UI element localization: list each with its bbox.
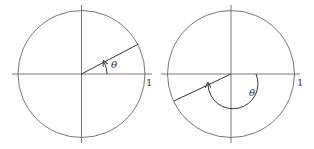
left-unit-circle: θ 1 xyxy=(12,5,152,143)
right-unit-circle: θ 1 xyxy=(161,5,303,143)
theta-label: θ xyxy=(111,59,117,70)
radius-label: 1 xyxy=(146,77,152,88)
angle-arc-arrow xyxy=(105,63,108,74)
unit-circle-diagrams: θ 1 θ 1 xyxy=(0,0,314,149)
radius-label: 1 xyxy=(297,77,303,88)
terminal-ray xyxy=(82,44,139,74)
theta-label: θ xyxy=(249,87,255,98)
terminal-ray xyxy=(174,74,231,101)
